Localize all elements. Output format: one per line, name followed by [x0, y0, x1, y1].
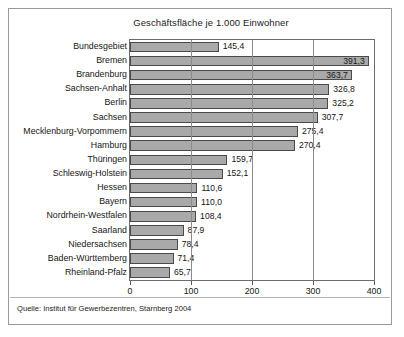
x-tick [374, 281, 375, 285]
category-label: Berlin [13, 96, 127, 108]
bar-value-label: 110,6 [201, 182, 222, 195]
bar-value-label: 363,7 [130, 69, 348, 82]
bar-value-label: 65,7 [174, 266, 191, 279]
category-label: Hessen [13, 181, 127, 193]
category-label: Niedersachsen [13, 238, 127, 250]
bar-value-label: 326,8 [333, 83, 355, 96]
bar-value-label: 325,2 [332, 97, 354, 110]
x-tick [313, 281, 314, 285]
x-tick-label: 100 [184, 286, 199, 296]
x-tick [191, 281, 192, 285]
bar-value-label: 270,4 [299, 139, 321, 152]
x-tick [130, 281, 131, 285]
category-label: Rheinland-Pfalz [13, 266, 127, 278]
x-tick [252, 281, 253, 285]
category-label: Hamburg [13, 139, 127, 151]
category-axis-labels: BundesgebietBremenBrandenburgSachsen-Anh… [13, 39, 127, 281]
bar [130, 239, 178, 250]
bar [130, 197, 197, 208]
category-label: Bremen [13, 54, 127, 66]
bar [130, 155, 227, 166]
bar-value-label: 391,3 [130, 55, 365, 68]
source-note: Quelle: Institut für Gewerbezentren, Sta… [17, 304, 191, 313]
bar-value-label: 152,1 [227, 167, 249, 180]
gridline-200 [252, 40, 253, 280]
x-tick-label: 0 [128, 286, 133, 296]
bar [130, 253, 174, 264]
bar [130, 126, 298, 137]
category-label: Thüringen [13, 153, 127, 165]
x-tick-label: 300 [306, 286, 321, 296]
bar [130, 169, 223, 180]
category-label: Baden-Württemberg [13, 252, 127, 264]
bar [130, 267, 170, 278]
bar-value-label: 110,0 [201, 196, 222, 209]
x-tick-label: 400 [367, 286, 382, 296]
x-axis: 0100200300400 [129, 281, 375, 303]
plot-area: 145,4391,3363,7326,8325,2307,7275,4270,4… [129, 39, 375, 281]
category-label: Saarland [13, 224, 127, 236]
category-label: Brandenburg [13, 68, 127, 80]
category-label: Nordrhein-Westfalen [13, 209, 127, 221]
chart-figure: Geschäftsfläche je 1.000 Einwohner Bunde… [0, 0, 404, 337]
bar [130, 183, 197, 194]
bar-value-label: 307,7 [322, 111, 344, 124]
bar-value-label: 159,7 [231, 153, 253, 166]
chart-title: Geschäftsfläche je 1.000 Einwohner [29, 17, 393, 28]
bar [130, 140, 295, 151]
bar [130, 98, 328, 109]
bar-value-label: 108,4 [200, 210, 222, 223]
gridline-100 [191, 40, 192, 280]
category-label: Mecklenburg-Vorpommern [13, 125, 127, 137]
bar-value-label: 145,4 [223, 40, 245, 53]
category-label: Sachsen [13, 111, 127, 123]
x-tick-label: 200 [245, 286, 260, 296]
bar [130, 211, 196, 222]
category-label: Schleswig-Holstein [13, 167, 127, 179]
bar [130, 84, 329, 95]
category-label: Bundesgebiet [13, 40, 127, 52]
figure-frame: Geschäftsfläche je 1.000 Einwohner Bunde… [8, 8, 392, 325]
gridline-300 [313, 40, 314, 280]
bar [130, 112, 318, 123]
category-label: Sachsen-Anhalt [13, 82, 127, 94]
bar [130, 42, 219, 53]
bar [130, 225, 184, 236]
source-divider [10, 297, 390, 298]
category-label: Bayern [13, 195, 127, 207]
